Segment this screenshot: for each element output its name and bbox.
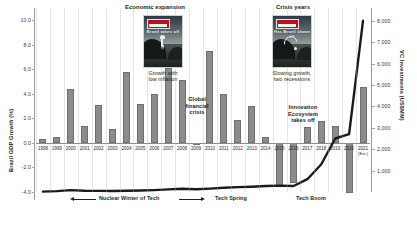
left-tick-label: 2.0 <box>6 115 31 121</box>
x-gridline <box>64 8 65 192</box>
cover-masthead <box>276 19 299 30</box>
right-tick-label: 1,000 <box>377 168 403 174</box>
left-tick-mark <box>32 192 35 193</box>
left-tick-mark <box>32 94 35 95</box>
x-gridline <box>342 8 343 192</box>
right-tick-label: 4,000 <box>377 103 403 109</box>
right-tick-mark <box>372 128 375 129</box>
era-arrow-right <box>179 199 201 200</box>
left-tick-mark <box>32 143 35 144</box>
rocket-flame-icon <box>161 45 164 51</box>
annotation-innovation-ecosystem: Innovation Ecosystem takes off <box>272 104 334 124</box>
right-tick-label: 7,000 <box>377 39 403 45</box>
right-axis-line <box>371 8 372 192</box>
x-gridline <box>245 8 246 192</box>
left-tick-label: -2.0 <box>6 164 31 170</box>
era-label-nuclear-winter: Nuclear Winter of Tech <box>99 195 159 201</box>
x-gridline <box>328 8 329 192</box>
x-gridline <box>36 8 37 192</box>
left-tick-mark <box>32 45 35 46</box>
cover-headline: Brazil takes off <box>144 29 182 34</box>
left-axis-line <box>34 8 35 200</box>
x-gridline <box>314 8 315 192</box>
cover-caption-left: Growth with low inflation <box>133 70 193 83</box>
era-label-tech-spring: Tech Spring <box>215 195 247 201</box>
x-gridline <box>120 8 121 192</box>
cover-caption-right: Slowing growth, two recessions <box>258 70 326 83</box>
era-label-tech-boom: Tech Boom <box>296 195 326 201</box>
magazine-cover-has-brazil-blown-it: Has Brazil blown it? <box>272 15 312 68</box>
gdp-vc-combo-chart: Brazil GDP Growth (%) VC Investments (US… <box>0 0 417 226</box>
magazine-cover-brazil-takes-off: Brazil takes off <box>143 15 183 68</box>
right-tick-mark <box>372 149 375 150</box>
left-tick-mark <box>32 167 35 168</box>
cover-masthead <box>147 19 170 30</box>
x-gridline <box>50 8 51 192</box>
right-tick-label: 3,000 <box>377 125 403 131</box>
x-gridline <box>356 8 357 192</box>
right-tick-mark <box>372 85 375 86</box>
x-gridline <box>78 8 79 192</box>
era-arrow-left <box>74 199 96 200</box>
x-gridline <box>133 8 134 192</box>
right-tick-mark <box>372 106 375 107</box>
right-tick-mark <box>372 21 375 22</box>
left-tick-label: -4.0 <box>6 189 31 195</box>
left-tick-label: 10.0 <box>6 17 31 23</box>
left-tick-label: 4.0 <box>6 91 31 97</box>
x-gridline <box>106 8 107 192</box>
left-tick-mark <box>32 20 35 21</box>
left-tick-label: 8.0 <box>6 42 31 48</box>
x-gridline <box>259 8 260 192</box>
x-gridline <box>231 8 232 192</box>
left-tick-mark <box>32 69 35 70</box>
x-gridline <box>92 8 93 192</box>
right-tick-label: 6,000 <box>377 61 403 67</box>
left-tick-mark <box>32 118 35 119</box>
right-tick-label: 5,000 <box>377 82 403 88</box>
left-tick-label: 6.0 <box>6 66 31 72</box>
annotation-global-financial-crisis: Global financial crisis <box>177 96 217 116</box>
annotation-economic-expansion: Economic expansion <box>100 4 210 10</box>
right-tick-mark <box>372 64 375 65</box>
x-gridline <box>217 8 218 192</box>
right-tick-mark <box>372 42 375 43</box>
left-tick-label: 0.0 <box>6 140 31 146</box>
right-tick-label: 2,000 <box>377 146 403 152</box>
right-tick-label: 8,000 <box>377 18 403 24</box>
right-tick-mark <box>372 171 375 172</box>
annotation-crisis-years: Crisis years <box>243 4 343 10</box>
